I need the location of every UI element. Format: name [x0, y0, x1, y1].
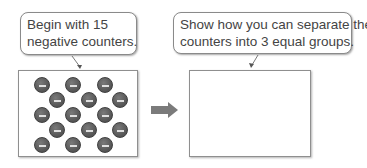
answer-box[interactable] [189, 70, 311, 157]
negative-counter [65, 107, 81, 123]
negative-counter [65, 77, 81, 93]
right-pointer-arrowhead-icon [249, 63, 254, 68]
negative-counter [65, 137, 81, 153]
negative-counter [34, 137, 50, 153]
negative-counter [97, 137, 113, 153]
negative-counter [81, 122, 97, 138]
negative-counter [112, 92, 128, 108]
negative-counter [34, 107, 50, 123]
negative-counter [112, 122, 128, 138]
negative-counter [97, 77, 113, 93]
left-pointer-arrowhead-icon [77, 65, 82, 69]
negative-counter [34, 77, 50, 93]
counters-box [18, 70, 138, 157]
right-pointer-line [252, 55, 258, 65]
negative-counter [81, 92, 97, 108]
negative-counter [49, 92, 65, 108]
negative-counter [97, 107, 113, 123]
right-arrow-icon [151, 102, 178, 118]
negative-counter [49, 122, 65, 138]
